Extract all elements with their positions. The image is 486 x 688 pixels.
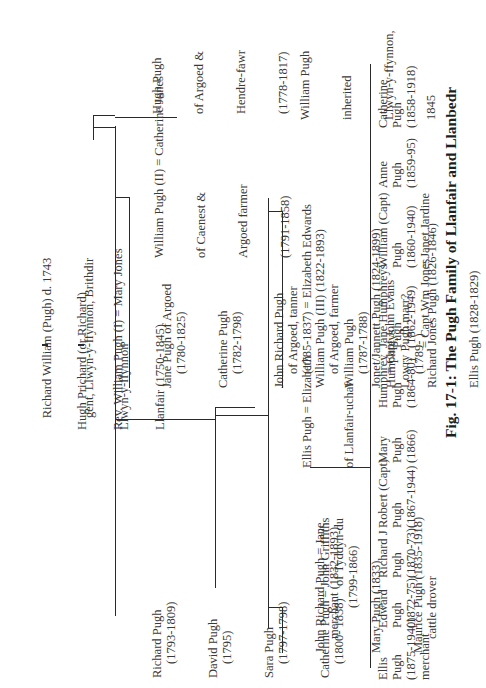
name: Ellis Pugh (1828-1829)	[467, 271, 481, 388]
name-line: Rev. William Pugh (I) = Mary Jones	[111, 248, 125, 430]
surname: Pugh	[390, 259, 404, 348]
detail-line: Argoed farmer	[236, 76, 250, 258]
dates: (1867-1944)	[404, 459, 418, 528]
dates: (1862-1949)	[404, 259, 418, 348]
connector	[93, 127, 115, 128]
gen2-sibling-bar	[115, 126, 116, 616]
name: Jane Humphreys	[376, 259, 390, 348]
connector	[93, 115, 115, 116]
gen4-child-0: CatherinePugh(1858-1918)	[376, 66, 418, 129]
spouse: = Capt Wm Jones	[418, 259, 432, 348]
gen4-child-3: Jane HumphreysPugh(1862-1949)= Capt Wm J…	[376, 259, 432, 348]
name: Catherine Pugh	[216, 311, 230, 388]
name: Robert (Capt)	[376, 459, 390, 528]
name: John Richard Pugh = Jane	[313, 522, 327, 653]
name-line: Ellis Pugh = Elizabeth	[300, 330, 314, 468]
dates: (1875-1940)	[404, 618, 418, 681]
detail-line: inherited	[340, 30, 354, 120]
dates: (1864-80)	[404, 355, 418, 408]
connector	[215, 408, 216, 588]
name: Richard J	[376, 528, 390, 578]
name: Anne	[376, 138, 390, 188]
name: David Pugh	[206, 619, 220, 678]
connector	[310, 467, 370, 468]
surname: Pugh	[390, 355, 404, 408]
detail-line: of Caenest &	[194, 76, 208, 258]
child-john-richard: John Richard Pugh = Janemerchant (1832-1…	[313, 517, 341, 653]
child-ellis: Ellis Pugh (1828-1829)	[467, 223, 481, 388]
name: Sara Pugh	[262, 627, 276, 678]
surname: Pugh	[390, 66, 404, 129]
dates: (1870-73)	[404, 528, 418, 578]
name: Humphrey	[376, 355, 390, 408]
dates: (1793-1809)	[164, 602, 178, 679]
detail-line: of Llanfair-uchaf	[342, 330, 356, 468]
surname: Pugh	[390, 138, 404, 188]
figure-caption: Fig. 17-1: The Pugh Family of Llanfair a…	[444, 87, 458, 438]
name: Richard Pugh	[150, 610, 164, 678]
name: Ellis	[376, 618, 390, 681]
surname: Pugh	[390, 459, 404, 528]
gen4-child-7: Richard JPugh(1870-73)	[376, 528, 418, 578]
name: William (Capt)	[376, 192, 390, 268]
gen4-child-9: EllisPugh(1875-1940)merchant	[376, 618, 432, 681]
spouse: = Janet Jardine	[418, 192, 432, 268]
dates: (1780-1825)	[174, 312, 188, 389]
name-line: William Pugh	[298, 30, 312, 120]
connector	[268, 607, 282, 608]
name-line: William Pugh (II) = Catherine Jones	[152, 76, 166, 258]
name: Jane Pugh of Argoed	[160, 284, 174, 388]
occupation: merchant	[418, 618, 432, 681]
surname: Pugh	[390, 528, 404, 578]
connector	[215, 407, 255, 408]
detail-line: 1845	[424, 30, 438, 120]
dates: (1860-1940)	[404, 192, 418, 268]
gen4-child-1: AnnePugh(1859-95)	[376, 138, 418, 188]
name: Catherine	[376, 66, 390, 129]
gen4-child-4: HumphreyPugh(1864-80)	[376, 355, 418, 408]
dates: (1795)	[220, 631, 234, 678]
dates: (1859-95)	[404, 138, 418, 188]
child-richard: Richard Pugh(1793-1809)	[150, 518, 178, 678]
node-william-inherited: William Pugh inherited Llwyn-y-ffynnon, …	[270, 30, 466, 120]
detail: merchant (1832-1893)	[327, 527, 341, 653]
dates: (1782-1798)	[230, 312, 244, 389]
connector	[215, 415, 268, 416]
child-david: David Pugh(1795)	[206, 518, 234, 678]
gen4-sibling-bar	[370, 64, 371, 668]
gen3-sibling-bar	[268, 198, 269, 628]
surname: Pugh	[390, 618, 404, 681]
dates: (1858-1918)	[404, 66, 418, 129]
surname: Pugh	[390, 192, 404, 268]
gen4-child-2: William (Capt)Pugh(1860-1940)= Janet Jar…	[376, 192, 432, 268]
connector	[268, 211, 282, 212]
connector	[282, 607, 283, 653]
connector	[115, 419, 215, 420]
gen4-child-6: Robert (Capt)Pugh(1867-1944)	[376, 459, 418, 528]
